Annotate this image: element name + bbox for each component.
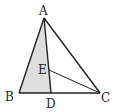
label-e: E bbox=[38, 63, 47, 77]
shaded-triangle-abd bbox=[19, 18, 51, 93]
segment-ac bbox=[44, 18, 100, 93]
label-c: C bbox=[101, 91, 110, 105]
label-a: A bbox=[38, 4, 48, 18]
label-d: D bbox=[46, 97, 56, 111]
label-b: B bbox=[5, 90, 14, 104]
geometry-diagram: A B C D E bbox=[0, 0, 117, 112]
segment-ec bbox=[49, 70, 100, 93]
